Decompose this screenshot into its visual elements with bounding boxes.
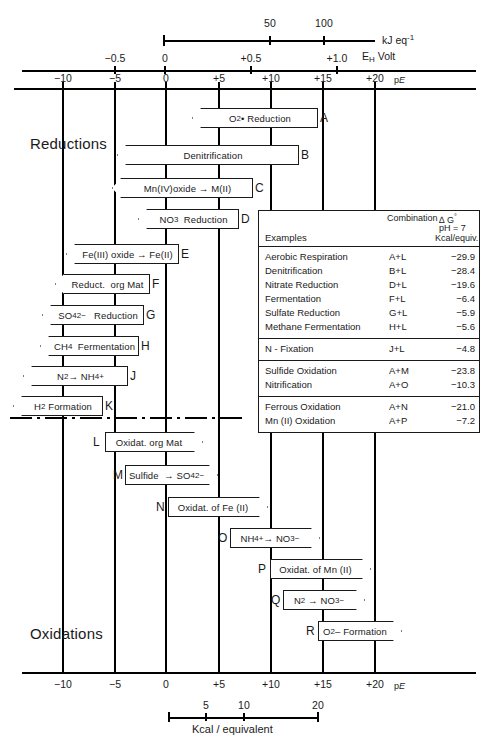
legend-row-delta-g-value: −5.9 [437, 306, 475, 320]
eh-axis-line [22, 70, 476, 72]
eh-tick-+0.5 [250, 66, 252, 74]
dashdot-segment [45, 417, 67, 419]
gridline-pe-0 [165, 82, 167, 672]
kcal-axis-name: Kcal / equivalent [192, 723, 273, 735]
legend-row-delta-g-value: −4.8 [437, 342, 475, 356]
dashdot-segment [80, 417, 102, 419]
reaction-arrow-o: NH4+ → NO3− [230, 528, 320, 548]
pe-bottom-label-0: 0 [163, 678, 169, 690]
kcal-label-10: 10 [238, 699, 250, 711]
legend-row-combination: H+L [389, 320, 407, 334]
eh-label-+0.5: +0.5 [240, 52, 261, 64]
legend-row: FermentationF+L−6.4 [259, 292, 479, 306]
legend-row-delta-g-value: −23.8 [437, 364, 475, 378]
legend-row-combination: G+L [389, 306, 407, 320]
legend-row-combination: A+L [389, 250, 406, 264]
redox-ladder-diagram: 50 100 kJ eq-1 −0.5 0 +0.5 +1.0 EH Volt … [0, 0, 482, 746]
legend-row: Sulfate ReductionG+L−5.9 [259, 306, 479, 320]
kcal-label-20: 20 [312, 699, 324, 711]
reaction-arrow-l: Oxidat. org Mat [105, 432, 203, 452]
reaction-arrow-g: SO42− Reduction [42, 305, 144, 325]
reaction-arrow-n: Oxidat. of Fe (II) [168, 497, 268, 517]
reaction-arrow-p: Oxidat. of Mn (II) [270, 559, 371, 579]
reaction-tag-g: G [146, 309, 155, 321]
legend-row: Ferrous OxidationA+N−21.0 [259, 400, 479, 414]
legend-row-combination: D+L [389, 278, 407, 292]
legend-row-name: Nitrate Reduction [265, 278, 338, 292]
kj-axis-name: kJ eq-1 [382, 33, 414, 46]
dashdot-segment [185, 417, 207, 419]
pe-top-axis-line [14, 88, 476, 90]
legend-body: Aerobic RespirationA+L−29.9Denitrificati… [259, 247, 479, 432]
legend-row: NitrificationA+O−10.3 [259, 378, 479, 392]
legend-row-delta-g-value: −19.6 [437, 278, 475, 292]
legend-row-combination: A+P [389, 414, 407, 428]
dashdot-segment [212, 417, 215, 419]
reaction-arrow-q: N2 → NO3− [283, 590, 365, 610]
legend-row-delta-g-value: −6.4 [437, 292, 475, 306]
eh-label-+1.0: +1.0 [326, 52, 347, 64]
legend-row-delta-g-value: −29.9 [437, 250, 475, 264]
kcal-label-5: 5 [203, 699, 209, 711]
eh-label--0.5: −0.5 [104, 52, 125, 64]
kj-axis-name-text: kJ eq [382, 34, 407, 46]
reaction-arrow-j: N2 → NH4+ [23, 366, 128, 386]
legend-row-name: Mn (II) Oxidation [265, 414, 335, 428]
pe-bottom-label-+10: +10 [262, 678, 280, 690]
legend-group-1: N - FixationJ+L−4.8 [259, 339, 479, 361]
dashdot-segment [142, 417, 145, 419]
reaction-tag-n: N [156, 501, 165, 513]
pe-bottom-axis-name: pE [394, 681, 405, 691]
legend-row-name: Nitrification [265, 378, 312, 392]
reaction-arrow-e: Fe(III) oxide → Fe(II) [66, 244, 179, 264]
reaction-arrow-a: O2 • Reduction [192, 108, 318, 128]
reaction-tag-j: J [130, 370, 136, 382]
kj-label-100: 100 [315, 17, 333, 29]
legend-row-combination: A+M [389, 364, 409, 378]
pe-bottom-axis-line [22, 672, 476, 674]
dashdot-segment [220, 417, 242, 419]
reaction-tag-o: O [218, 532, 227, 544]
reaction-tag-q: Q [271, 594, 280, 606]
reaction-arrow-f: Reduct. org Mat [55, 274, 150, 294]
eh-label-0: 0 [162, 52, 168, 64]
pe-bottom-label-+15: +15 [314, 678, 332, 690]
reaction-tag-d: D [241, 213, 250, 225]
reaction-tag-a: A [320, 112, 328, 124]
pe-bottom-label-+20: +20 [366, 678, 384, 690]
legend-row-name: Ferrous Oxidation [265, 400, 341, 414]
legend-header-combination: Combination [387, 213, 438, 223]
legend-row-name: N - Fixation [265, 342, 314, 356]
pe-bottom-label--10: −10 [54, 678, 72, 690]
reaction-arrow-r: O2 – Formation [318, 621, 402, 641]
legend-row-combination: A+N [389, 400, 408, 414]
eh-axis-name-text: E [362, 50, 369, 62]
dashdot-segment [150, 417, 172, 419]
legend-row-delta-g-value: −5.6 [437, 320, 475, 334]
legend-row-combination: F+L [389, 292, 406, 306]
examples-legend-table: Combination ∆ G° pH = 7 Kcal/equiv. Exam… [258, 210, 480, 433]
reaction-tag-f: F [152, 278, 159, 290]
dashdot-segment [72, 417, 75, 419]
legend-row-delta-g-value: −10.3 [437, 378, 475, 392]
reaction-arrow-d: NO3 Reduction [138, 209, 239, 229]
reaction-tag-h: H [141, 340, 150, 352]
legend-row-name: Methane Fermentation [265, 320, 361, 334]
gridline-pe-+5 [218, 82, 220, 672]
legend-row-combination: B+L [389, 264, 406, 278]
legend-group-3: Ferrous OxidationA+N−21.0Mn (II) Oxidati… [259, 397, 479, 432]
legend-row: Mn (II) OxidationA+P−7.2 [259, 414, 479, 428]
reaction-tag-e: E [181, 248, 189, 260]
reaction-arrow-m: Sulfide → SO42− [125, 465, 218, 485]
reaction-tag-k: K [105, 400, 113, 412]
eh-axis-name: EH Volt [362, 50, 395, 64]
legend-row: Methane FermentationH+L−5.6 [259, 320, 479, 334]
legend-header-examples: Examples [265, 232, 307, 243]
reductions-caption: Reductions [30, 135, 107, 152]
pe-bottom-label-+5: +5 [213, 678, 225, 690]
reaction-tag-p: P [258, 563, 266, 575]
reaction-tag-r: R [306, 625, 315, 637]
legend-row-combination: J+L [389, 342, 405, 356]
kj-axis-name-exponent: -1 [407, 33, 414, 42]
pe-bottom-axis-name-e: E [399, 681, 405, 691]
